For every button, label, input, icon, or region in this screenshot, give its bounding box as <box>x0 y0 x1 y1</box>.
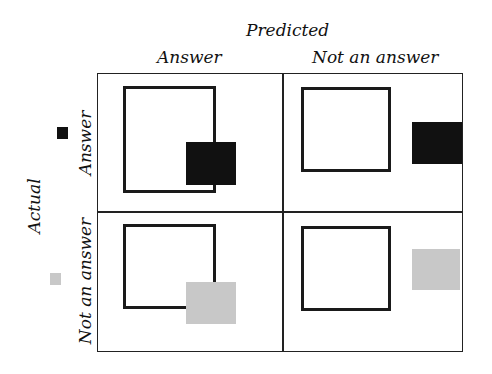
cell-notanswer-notanswer-outline <box>301 226 391 311</box>
cell-notanswer-notanswer-fill <box>412 249 460 290</box>
legend-swatch-answer <box>57 127 68 139</box>
column-divider <box>282 73 284 352</box>
legend-swatch-not-an-answer <box>50 273 61 285</box>
column-header-answer: Answer <box>157 47 222 67</box>
cell-answer-notanswer-fill <box>412 122 462 164</box>
row-divider <box>97 211 463 213</box>
cell-answer-answer-fill <box>186 142 236 185</box>
row-header-answer: Answer <box>75 103 97 183</box>
column-header-not-an-answer: Not an answer <box>312 47 438 67</box>
actual-axis-title: Actual <box>24 166 46 246</box>
row-header-not-an-answer: Not an answer <box>75 211 97 351</box>
cell-answer-notanswer-outline <box>301 87 391 172</box>
cell-notanswer-answer-fill <box>186 282 236 324</box>
predicted-axis-title: Predicted <box>246 20 329 40</box>
